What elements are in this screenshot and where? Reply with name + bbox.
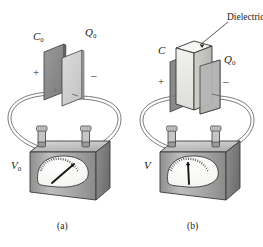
label-minus-a: – xyxy=(91,70,97,81)
label-minus-b: – xyxy=(223,76,229,87)
label-plus-b: + xyxy=(158,76,164,87)
panel-b: Dielectric C Q0 + – V (b) xyxy=(132,0,263,247)
panel-b-artwork xyxy=(132,0,263,247)
terminal-left-a xyxy=(37,126,47,147)
capacitor-plate-right-front-b xyxy=(200,60,220,114)
label-dielectric-callout: Dielectric xyxy=(227,13,263,23)
voltmeter-b xyxy=(160,141,240,200)
voltmeter-a xyxy=(30,141,110,200)
capacitor-plate-right-a xyxy=(62,50,84,106)
label-voltage-b: V xyxy=(144,160,151,173)
dial-face-b xyxy=(168,156,219,187)
label-capacitance-b: C xyxy=(158,45,165,58)
panel-a-artwork xyxy=(0,0,131,247)
panel-label-a: (a) xyxy=(57,222,68,232)
figure-capacitor-dielectric: C0 Q0 + – V0 (a) xyxy=(0,0,263,247)
label-charge-b: Q0 xyxy=(224,54,235,67)
panel-label-b: (b) xyxy=(187,222,198,232)
panel-a: C0 Q0 + – V0 (a) xyxy=(0,0,131,247)
terminal-left-b xyxy=(167,126,177,147)
terminal-right-a xyxy=(81,126,91,147)
label-voltage-a: V0 xyxy=(11,160,21,173)
label-capacitance-a: C0 xyxy=(33,31,44,44)
dial-face-a xyxy=(38,156,89,187)
label-charge-a: Q0 xyxy=(85,27,96,40)
terminal-right-b xyxy=(211,126,221,147)
label-plus-a: + xyxy=(33,67,39,78)
